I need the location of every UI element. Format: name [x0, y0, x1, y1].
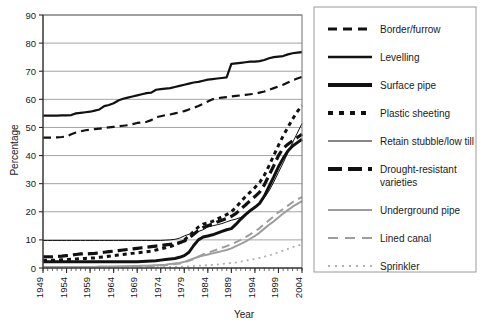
series-line-underground-pipe — [43, 201, 302, 267]
x-tick-label: 1994 — [246, 277, 257, 298]
x-tick-label: 1984 — [199, 277, 210, 298]
x-tick-label: 1954 — [58, 277, 69, 298]
y-tick-label: 20 — [25, 206, 36, 217]
series-line-levelling — [43, 52, 302, 116]
series-line-lined-canal — [43, 197, 302, 267]
legend-label: Plastic sheeting — [380, 108, 450, 119]
y-tick-label: 80 — [25, 38, 36, 49]
x-tick-label: 1949 — [34, 277, 45, 298]
series-layer — [43, 52, 302, 268]
y-tick-label: 60 — [25, 94, 36, 105]
y-axis-ticks: 0102030405060708090 — [25, 10, 43, 274]
y-tick-label: 40 — [25, 150, 36, 161]
legend-label: Underground pipe — [380, 205, 460, 216]
x-tick-label: 1974 — [152, 277, 163, 298]
series-line-surface-pipe — [43, 139, 302, 262]
chart-legend: Border/furrowLevellingSurface pipePlasti… — [314, 7, 476, 272]
x-tick-label: 1964 — [105, 277, 116, 298]
series-line-border-furrow — [43, 77, 302, 138]
x-tick-label: 1959 — [81, 277, 92, 298]
legend-label: Lined canal — [380, 233, 431, 244]
y-tick-label: 50 — [25, 122, 36, 133]
y-tick-label: 70 — [25, 66, 36, 77]
legend-label: Levelling — [380, 52, 419, 63]
y-tick-label: 30 — [25, 178, 36, 189]
x-tick-label: 1989 — [222, 277, 233, 298]
x-tick-label: 1969 — [128, 277, 139, 298]
y-tick-label: 90 — [25, 10, 36, 21]
legend-label: Drought-resistant — [380, 164, 457, 175]
y-tick-label: 10 — [25, 234, 36, 245]
legend-label: varieties — [380, 177, 417, 188]
y-tick-label: 0 — [31, 263, 36, 274]
x-axis-ticks: 1949195419591964196919741979198419891994… — [34, 268, 304, 298]
x-tick-label: 1979 — [175, 277, 186, 298]
series-line-retain-stubble-low-till — [43, 124, 302, 241]
legend-label: Border/furrow — [380, 24, 441, 35]
chart-figure: 0102030405060708090 19491954195919641969… — [0, 0, 481, 327]
line-chart: 0102030405060708090 19491954195919641969… — [0, 0, 481, 327]
y-axis-title: Percentage — [9, 124, 20, 176]
legend-label: Surface pipe — [380, 80, 437, 91]
legend-label: Sprinkler — [380, 261, 420, 272]
series-line-plastic-sheeting — [43, 106, 302, 261]
x-tick-label: 2004 — [293, 277, 304, 298]
legend-label: Retain stubble/low till — [380, 136, 474, 147]
x-axis-title: Year — [234, 309, 255, 320]
x-tick-label: 1999 — [269, 277, 280, 298]
